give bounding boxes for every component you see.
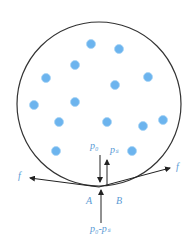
f-right-arrow: [99, 168, 170, 187]
label-p0: p₀: [90, 141, 98, 151]
bubble-diagram: [0, 0, 193, 242]
label-B: B: [116, 196, 122, 206]
bubble-outline: [17, 22, 181, 186]
label-A: A: [86, 196, 92, 206]
label-f-right: f: [176, 162, 179, 172]
particles: [30, 40, 168, 156]
f-left-arrow: [30, 178, 99, 187]
label-ps: pₛ: [110, 145, 119, 155]
label-f-left: f: [18, 171, 21, 181]
label-p0-minus-ps: p₀-pₛ: [90, 224, 111, 234]
